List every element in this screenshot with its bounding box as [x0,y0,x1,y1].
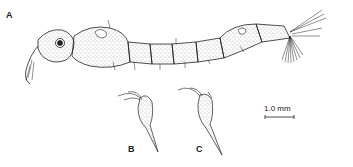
larva-illustration: A B C 1.0 mm [0,0,353,167]
panel-a-larva [26,10,327,84]
panel-label-b: B [128,144,135,154]
illustration-drawing [0,0,353,167]
panel-b-appendage [118,92,158,152]
panel-label-c: C [196,144,203,154]
scale-bar-label: 1.0 mm [264,104,291,113]
scale-bar [265,115,294,119]
panel-label-a: A [6,10,13,20]
